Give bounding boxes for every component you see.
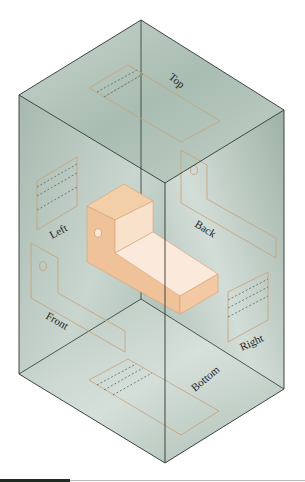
hole [95,229,102,237]
footer-rule-light [70,480,305,481]
page-footer-rule [0,472,305,481]
